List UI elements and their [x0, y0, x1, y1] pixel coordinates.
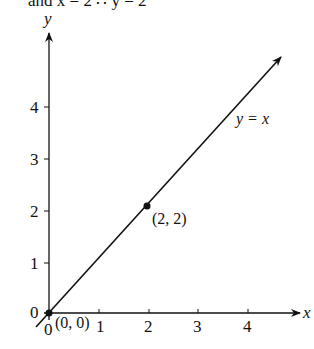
point-origin-label: (0, 0): [55, 314, 90, 332]
x-tick-label-1: 1: [96, 317, 105, 336]
point-origin: [46, 310, 53, 317]
point-2-2-label: (2, 2): [152, 210, 187, 228]
y-tick-label-4: 4: [30, 98, 39, 117]
point-2-2: [144, 203, 151, 210]
y-ticks: [44, 107, 49, 263]
x-tick-label-4: 4: [243, 317, 252, 336]
y-tick-label-1: 1: [30, 254, 39, 273]
y-tick-label-3: 3: [30, 150, 39, 169]
y-tick-label-2: 2: [30, 202, 39, 221]
x-tick-label-2: 2: [144, 317, 153, 336]
origin-x-label: 0: [44, 320, 53, 339]
line-label: y = x: [234, 110, 269, 128]
origin-y-label: 0: [30, 303, 39, 322]
x-tick-label-3: 3: [193, 317, 202, 336]
x-axis-label: x: [302, 303, 311, 322]
y-axis-label: y: [42, 9, 52, 28]
graph-y-equals-x: 1 2 3 4 0 1 2 3 4 0 x y (0, 0) (2, 2) y …: [0, 0, 314, 349]
line-y-equals-x: [36, 57, 281, 327]
